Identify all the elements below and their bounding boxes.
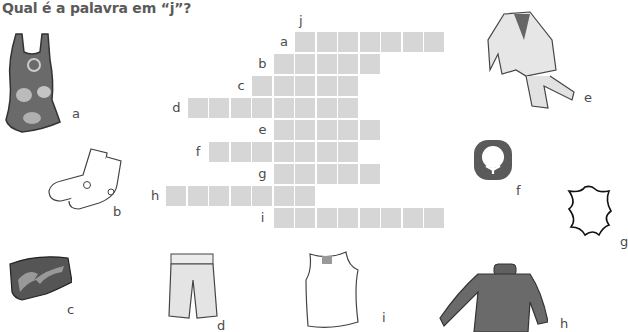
crossword-cell[interactable]: [295, 54, 315, 74]
crossword-cell[interactable]: [317, 54, 337, 74]
crossword-cell[interactable]: [274, 98, 294, 118]
crossword-cell[interactable]: [274, 76, 294, 96]
crossword-cell[interactable]: [209, 142, 229, 162]
crossword-cell[interactable]: [295, 76, 315, 96]
crossword-cell[interactable]: [274, 142, 294, 162]
crossword-cell[interactable]: [317, 208, 337, 228]
shorts-icon: [165, 250, 220, 326]
crossword-cell[interactable]: [295, 164, 315, 184]
row-label-g: g: [256, 164, 270, 184]
picture-label-d: d: [217, 318, 225, 332]
crossword-cell[interactable]: [338, 76, 358, 96]
picture-label-a: a: [72, 106, 80, 121]
picture-label-g: g: [620, 234, 628, 249]
crossword-cell[interactable]: [295, 120, 315, 140]
crossword-cell[interactable]: [338, 164, 358, 184]
crossword-cell[interactable]: [424, 208, 444, 228]
row-label-f: f: [191, 142, 205, 162]
crossword-cell[interactable]: [295, 142, 315, 162]
crossword-cell[interactable]: [274, 54, 294, 74]
crossword-cell[interactable]: [252, 98, 272, 118]
crossword-cell[interactable]: [317, 164, 337, 184]
leather-symbol-icon: [565, 183, 615, 247]
tank-top-icon: [302, 250, 362, 332]
crossword-cell[interactable]: [209, 186, 229, 206]
row-label-h: h: [148, 186, 162, 206]
crossword-cell[interactable]: [360, 208, 380, 228]
crossword-cell[interactable]: [252, 76, 272, 96]
crossword-cell[interactable]: [338, 32, 358, 52]
row-label-a: a: [277, 32, 291, 52]
crossword-cell[interactable]: [317, 76, 337, 96]
picture-label-f: f: [516, 183, 521, 198]
crossword-cell[interactable]: [403, 208, 423, 228]
crossword-cell[interactable]: [166, 186, 186, 206]
picture-label-h: h: [560, 316, 568, 331]
crossword-cell[interactable]: [295, 98, 315, 118]
crossword-cell[interactable]: [381, 208, 401, 228]
crossword-cell[interactable]: [360, 120, 380, 140]
picture-label-i: i: [382, 310, 386, 325]
crossword-cell[interactable]: [231, 98, 251, 118]
crossword-cell[interactable]: [360, 32, 380, 52]
crossword-cell[interactable]: [252, 142, 272, 162]
column-label-j: j: [299, 13, 303, 29]
crossword-cell[interactable]: [360, 54, 380, 74]
picture-label-e: e: [584, 90, 592, 105]
picture-label-b: b: [113, 204, 121, 219]
crossword-cell[interactable]: [338, 208, 358, 228]
picture-label-c: c: [67, 302, 74, 317]
crossword-cell[interactable]: [231, 142, 251, 162]
crossword-cell[interactable]: [188, 98, 208, 118]
crossword-cell[interactable]: [295, 32, 315, 52]
row-label-c: c: [234, 76, 248, 96]
crossword-cell[interactable]: [295, 186, 315, 206]
crossword-cell[interactable]: [403, 32, 423, 52]
crossword-cell[interactable]: [274, 186, 294, 206]
crossword-cell[interactable]: [338, 120, 358, 140]
crossword-cell[interactable]: [188, 186, 208, 206]
crossword-cell[interactable]: [252, 186, 272, 206]
crossword-cell[interactable]: [295, 208, 315, 228]
crossword-cell[interactable]: [317, 32, 337, 52]
crossword-cell[interactable]: [424, 32, 444, 52]
row-label-e: e: [256, 120, 270, 140]
crossword-cell[interactable]: [317, 120, 337, 140]
cotton-logo-icon: [472, 138, 514, 188]
crossword-cell[interactable]: [317, 98, 337, 118]
crossword-cell[interactable]: [381, 32, 401, 52]
crossword-cell[interactable]: [338, 54, 358, 74]
sweater-icon: [438, 262, 548, 332]
swimsuit-icon: [2, 30, 62, 139]
crossword-cell[interactable]: [360, 164, 380, 184]
swim-trunks-icon: [6, 252, 72, 308]
row-label-d: d: [170, 98, 184, 118]
crossword-cell[interactable]: [274, 208, 294, 228]
crossword-cell[interactable]: [317, 142, 337, 162]
crossword-cell[interactable]: [338, 142, 358, 162]
crossword-cell[interactable]: [338, 98, 358, 118]
crossword-cell[interactable]: [274, 164, 294, 184]
crossword-cell[interactable]: [209, 98, 229, 118]
crossword-cell[interactable]: [274, 120, 294, 140]
suit-icon: [486, 10, 576, 114]
row-label-b: b: [256, 54, 270, 74]
row-label-i: i: [256, 208, 270, 228]
crossword-cell[interactable]: [231, 186, 251, 206]
